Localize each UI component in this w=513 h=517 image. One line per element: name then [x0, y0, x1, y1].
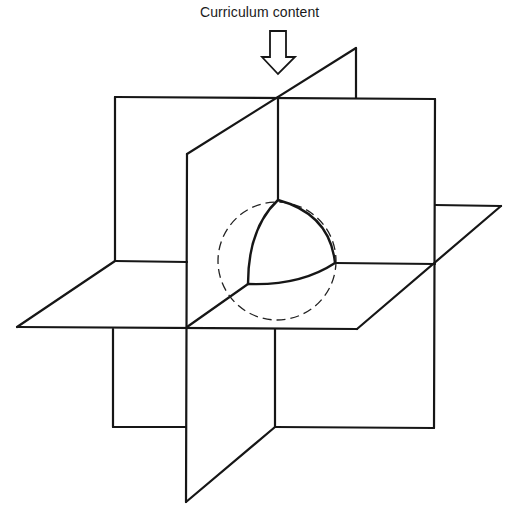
- horizontal-plane: [17, 205, 501, 329]
- sphere-outline: [218, 202, 336, 320]
- intersection-lines: [187, 97, 435, 427]
- vertical-diagonal-plane: [186, 48, 356, 502]
- three-planes-diagram: [0, 0, 513, 517]
- sphere-octant: [248, 200, 335, 284]
- sphere: [218, 200, 336, 320]
- down-arrow-icon: [262, 31, 295, 74]
